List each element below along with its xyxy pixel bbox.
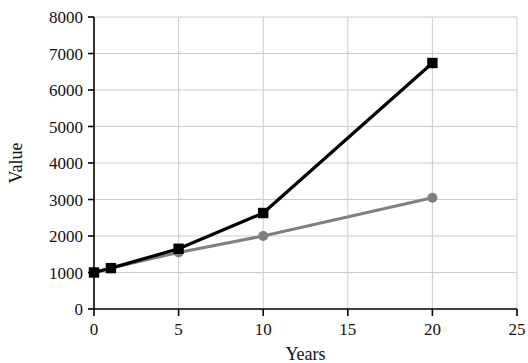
line-chart: 0100020003000400050006000700080000510152…: [0, 0, 528, 363]
y-axis-tick-label: 7000: [49, 45, 83, 64]
y-axis-tick-label: 0: [75, 300, 84, 319]
y-axis-tick-label: 6000: [49, 81, 83, 100]
y-axis-tick-labels: 010002000300040005000600070008000: [49, 8, 83, 319]
x-axis-tick-label: 15: [339, 320, 356, 339]
chart-canvas: 0100020003000400050006000700080000510152…: [0, 0, 528, 363]
data-point-marker: [89, 267, 99, 277]
axis-ticks: [88, 17, 517, 316]
y-axis-tick-label: 4000: [49, 154, 83, 173]
data-point-marker: [106, 263, 116, 273]
data-point-marker: [173, 244, 183, 254]
data-point-marker: [258, 231, 268, 241]
x-axis-tick-label: 25: [509, 320, 526, 339]
y-axis-tick-label: 5000: [49, 118, 83, 137]
grid-lines: [94, 17, 517, 309]
y-axis-tick-label: 1000: [49, 264, 83, 283]
y-axis-tick-label: 3000: [49, 191, 83, 210]
x-axis-tick-label: 0: [90, 320, 99, 339]
data-point-marker: [427, 193, 437, 203]
y-axis-tick-label: 2000: [49, 227, 83, 246]
data-point-marker: [258, 208, 268, 218]
x-axis-title: Years: [285, 344, 325, 363]
x-axis-tick-label: 10: [255, 320, 272, 339]
data-point-marker: [427, 58, 437, 68]
y-axis-tick-label: 8000: [49, 8, 83, 27]
y-axis-title: Value: [6, 142, 26, 183]
x-axis-tick-label: 5: [174, 320, 183, 339]
x-axis-tick-label: 20: [424, 320, 441, 339]
x-axis-tick-labels: 0510152025: [90, 320, 526, 339]
